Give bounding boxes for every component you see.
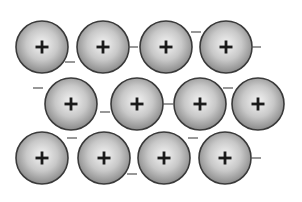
electron-minus-icon (65, 61, 75, 62)
electron-minus-icon (188, 137, 198, 138)
positive-ion (78, 132, 130, 184)
positive-ion (232, 78, 284, 130)
positive-ion (199, 132, 251, 184)
metallic-bonding-diagram (0, 0, 302, 202)
electron-minus-icon (191, 31, 201, 32)
electron-minus-icon (251, 46, 261, 47)
positive-ion (16, 21, 68, 73)
positive-ion (45, 78, 97, 130)
positive-ion (138, 132, 190, 184)
electron-minus-icon (127, 173, 137, 174)
positive-ion (77, 21, 129, 73)
positive-ion (111, 78, 163, 130)
electron-minus-icon (163, 103, 173, 104)
electron-minus-icon (67, 137, 77, 138)
electron-minus-icon (223, 87, 233, 88)
electron-minus-icon (33, 87, 43, 88)
electron-minus-icon (128, 46, 138, 47)
electron-minus-icon (100, 111, 110, 112)
electron-minus-icon (251, 157, 261, 158)
positive-ion (140, 21, 192, 73)
positive-ion (174, 78, 226, 130)
positive-ion (16, 132, 68, 184)
positive-ion (200, 21, 252, 73)
positive-ion-lattice (16, 21, 284, 184)
